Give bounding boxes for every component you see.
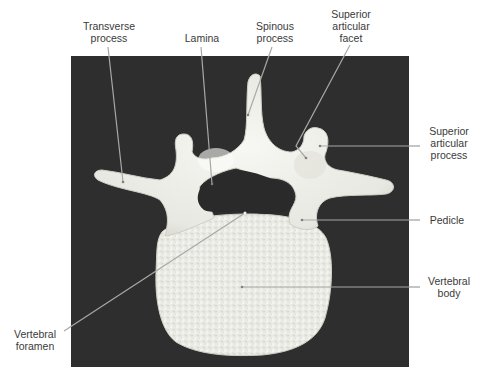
leader-stubs [409,146,420,287]
neural-arch-shape [95,74,394,236]
vertebral-body-shape [156,214,332,356]
vertebra-illustration [0,0,481,376]
label-vertebral-body: Vertebral body [424,275,474,299]
label-lamina: Lamina [180,32,224,44]
label-spinous-process: Spinous process [250,20,300,44]
label-vertebral-foramen: Vertebral foramen [10,328,60,352]
label-superior-articular-process: Superior articular process [420,125,478,161]
leader-transverse-process [108,47,123,182]
label-superior-articular-facet: Superior articular facet [326,8,376,44]
label-pedicle: Pedicle [422,214,472,226]
label-transverse-process: Transverse process [80,20,138,44]
